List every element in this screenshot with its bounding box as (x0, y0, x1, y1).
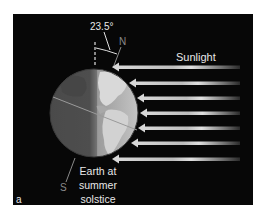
sunlight-label: Sunlight (176, 52, 216, 63)
south-pole-label: S (60, 183, 67, 193)
sunlight-arrow-icon (137, 94, 240, 103)
sunlight-arrow-icon (112, 155, 240, 164)
panel-letter-label: a (16, 195, 22, 205)
tilt-angle-label: 23.5° (90, 22, 113, 32)
earth-caption: Earth at summer solstice (72, 164, 124, 206)
diagram-graphics (0, 0, 266, 219)
sunlight-arrow-icon (138, 124, 240, 133)
sunlight-arrow-icon (131, 139, 240, 148)
angle-pointer-line (104, 32, 110, 50)
sunlight-arrow-icon (129, 79, 240, 88)
sunlight-arrow-icon (140, 109, 240, 118)
tilt-angle-arc (96, 48, 117, 54)
earth-globe (40, 60, 138, 170)
sunlight-arrow-icon (112, 63, 240, 72)
north-pole-label: N (119, 37, 126, 47)
